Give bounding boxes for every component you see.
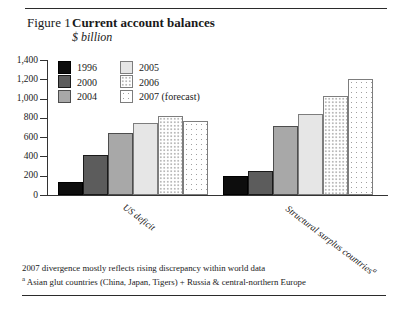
y-tick-label: 600 — [0, 132, 38, 143]
footnote-2-text: Asian glut countries (China, Japan, Tige… — [27, 277, 306, 287]
legend-item-2007-forecast-: 2007 (forecast) — [120, 86, 200, 104]
y-tick-mark — [40, 156, 47, 157]
bar-2005-US-deficit — [133, 123, 158, 195]
legend-swatch — [120, 90, 133, 103]
bar-2004-Structural-surplus-countries — [273, 126, 298, 195]
y-tick-mark — [40, 176, 47, 177]
bar-2007-forecast--US-deficit — [183, 121, 208, 195]
y-tick-mark — [40, 118, 47, 119]
y-tick-mark — [40, 60, 47, 61]
y-tick-mark — [40, 137, 47, 138]
y-tick-label: 200 — [0, 170, 38, 181]
bottom-rule — [22, 295, 386, 296]
figure-panel: Figure 1 Current account balances $ bill… — [0, 0, 406, 310]
y-tick-label: 1,000 — [0, 93, 38, 104]
legend-item-2004: 2004 — [58, 86, 97, 104]
y-tick-label: 800 — [0, 112, 38, 123]
footnote-2: a Asian glut countries (China, Japan, Ti… — [22, 275, 306, 287]
bar-2004-US-deficit — [108, 133, 133, 195]
bar-2000-Structural-surplus-countries — [248, 171, 273, 195]
y-tick-label: 1,200 — [0, 74, 38, 85]
legend-label: 2007 (forecast) — [139, 91, 200, 102]
legend-label: 2004 — [77, 91, 97, 102]
bar-2006-Structural-surplus-countries — [323, 96, 348, 195]
y-axis-line — [47, 60, 48, 196]
footnote-marker: a — [22, 275, 25, 283]
y-tick-label: 0 — [0, 190, 38, 201]
category-label-text: Structural surplus countries — [284, 204, 375, 276]
y-tick-mark — [40, 195, 47, 196]
y-tick-mark — [40, 79, 47, 80]
footnote-1: 2007 divergence mostly reflects rising d… — [22, 263, 265, 273]
legend-swatch — [58, 90, 71, 103]
y-tick-label: 400 — [0, 151, 38, 162]
category-label-text: US deficit — [121, 202, 157, 233]
y-tick-mark — [40, 99, 47, 100]
bar-2000-US-deficit — [83, 155, 108, 196]
bar-1996-Structural-surplus-countries — [223, 176, 248, 195]
bar-2006-US-deficit — [158, 116, 183, 195]
category-label-us-deficit: US deficit — [121, 202, 157, 233]
y-tick-label: 1,400 — [0, 55, 38, 66]
bar-2005-Structural-surplus-countries — [298, 114, 323, 195]
bar-2007-forecast--Structural-surplus-countries — [348, 79, 373, 195]
category-label-structural-surplus: Structural surplus countriesa — [284, 202, 379, 278]
bar-1996-US-deficit — [58, 182, 83, 195]
x-axis-line — [47, 195, 388, 196]
